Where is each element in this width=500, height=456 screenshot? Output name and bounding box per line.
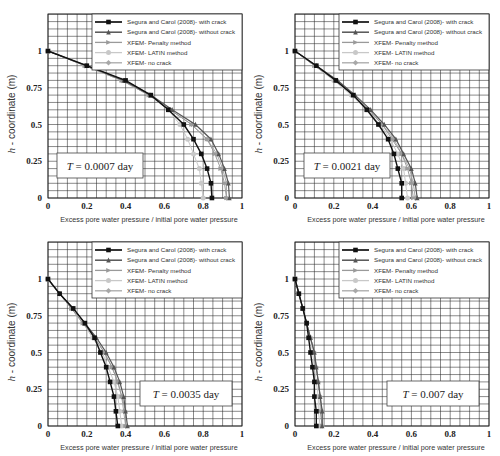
y-tick-label: 0.25 — [273, 156, 289, 166]
time-annotation: T = 0.007 day — [387, 381, 479, 406]
y-tick-label: 0 — [38, 193, 43, 203]
x-tick-label: 0.6 — [406, 201, 418, 211]
y-tick-label: 0.25 — [26, 156, 42, 166]
x-axis-label: Excess pore water pressure / initial por… — [307, 215, 484, 224]
y-tick-label: 0.5 — [278, 120, 290, 130]
square-marker-icon — [399, 196, 404, 201]
square-marker-icon — [166, 108, 171, 113]
svg-text:T = 0.007 day: T = 0.007 day — [402, 388, 464, 400]
y-tick-label: 0.75 — [26, 311, 42, 321]
square-marker-icon — [310, 365, 315, 370]
legend: Segura and Carol (2008)- with crackSegur… — [339, 14, 489, 70]
y-tick-label: 0.75 — [26, 83, 42, 93]
square-marker-icon — [108, 380, 113, 385]
square-marker-icon — [123, 78, 128, 83]
svg-text:T = 0.0021 day: T = 0.0021 day — [314, 160, 381, 172]
circle-marker-icon — [191, 151, 196, 156]
y-tick-label: 0.25 — [26, 384, 42, 394]
x-tick-label: 0.2 — [328, 429, 340, 439]
square-marker-icon — [92, 336, 97, 341]
x-tick-label: 0 — [293, 201, 298, 211]
square-marker-icon — [57, 291, 62, 296]
legend-entry: XFEM- Penalty method — [374, 39, 439, 46]
x-axis-label: Excess pore water pressure / initial por… — [60, 215, 237, 224]
legend-entry: Segura and Carol (2008)- without crack — [374, 28, 483, 35]
square-marker-icon — [149, 93, 154, 98]
legend-entry: XFEM- LATIN method — [374, 49, 435, 56]
square-marker-icon — [364, 108, 369, 113]
x-tick-label: 0.4 — [367, 429, 379, 439]
x-axis-label: Excess pore water pressure / initial por… — [60, 443, 237, 452]
x-tick-label: 1 — [240, 429, 245, 439]
square-marker-icon — [353, 20, 358, 25]
x-tick-label: 0 — [46, 201, 51, 211]
y-axis-label: h - coordinate (m) — [5, 75, 17, 154]
x-tick-label: 0.6 — [159, 429, 171, 439]
circle-marker-icon — [185, 137, 190, 142]
legend-entry: XFEM- no crack — [127, 287, 172, 294]
chart-panel-2: 00.20.40.60.8100.250.50.751Excess pore w… — [247, 0, 497, 228]
x-tick-label: 0.6 — [406, 429, 418, 439]
circle-marker-icon — [353, 278, 358, 283]
time-annotation: T = 0.0007 day — [57, 153, 143, 178]
square-marker-icon — [46, 277, 51, 282]
x-tick-label: 1 — [240, 201, 245, 211]
legend-entry: XFEM- Penalty method — [127, 267, 192, 274]
chart-svg-t0035: 00.20.40.60.8100.250.50.751Excess pore w… — [0, 228, 250, 456]
y-tick-label: 0.75 — [273, 311, 289, 321]
y-tick-label: 0.25 — [273, 384, 289, 394]
square-marker-icon — [306, 336, 311, 341]
square-marker-icon — [351, 93, 356, 98]
legend-entry: XFEM- LATIN method — [374, 277, 435, 284]
square-marker-icon — [396, 166, 401, 171]
x-tick-label: 0.2 — [328, 201, 340, 211]
circle-marker-icon — [106, 50, 111, 55]
square-marker-icon — [386, 137, 391, 142]
square-marker-icon — [333, 78, 338, 83]
y-tick-label: 1 — [285, 274, 290, 284]
svg-text:T = 0.0035 day: T = 0.0035 day — [153, 388, 220, 400]
square-marker-icon — [210, 196, 215, 201]
y-axis-label: h - coordinate (m) — [252, 75, 264, 154]
legend-entry: Segura and Carol (2008)- with crack — [127, 18, 227, 25]
legend-entry: XFEM- LATIN method — [127, 277, 188, 284]
chart-panel-3: 00.20.40.60.8100.250.50.751Excess pore w… — [0, 228, 250, 456]
time-annotation: T = 0.0035 day — [140, 381, 232, 406]
y-tick-label: 0 — [285, 193, 290, 203]
legend: Segura and Carol (2008)- with crackSegur… — [339, 242, 489, 298]
x-tick-label: 0.6 — [159, 201, 171, 211]
x-tick-label: 0.4 — [367, 201, 379, 211]
square-marker-icon — [116, 424, 121, 429]
legend: Segura and Carol (2008)- with crackSegur… — [92, 242, 242, 298]
legend-entry: Segura and Carol (2008)- without crack — [127, 28, 236, 35]
y-tick-label: 1 — [285, 46, 290, 56]
square-marker-icon — [106, 248, 111, 253]
square-marker-icon — [104, 365, 109, 370]
square-marker-icon — [314, 409, 319, 414]
square-marker-icon — [304, 321, 309, 326]
x-tick-label: 1 — [487, 201, 492, 211]
square-marker-icon — [191, 137, 196, 142]
x-tick-label: 0 — [46, 429, 51, 439]
square-marker-icon — [353, 248, 358, 253]
legend: Segura and Carol (2008)- with crackSegur… — [92, 14, 242, 70]
legend-entry: XFEM- Penalty method — [127, 39, 192, 46]
y-tick-label: 0.5 — [31, 120, 43, 130]
square-marker-icon — [98, 350, 103, 355]
chart-panel-4: 00.20.40.60.8100.250.50.751Excess pore w… — [247, 228, 497, 456]
square-marker-icon — [312, 380, 317, 385]
square-marker-icon — [46, 49, 51, 54]
y-tick-label: 1 — [38, 274, 43, 284]
square-marker-icon — [106, 20, 111, 25]
circle-marker-icon — [199, 181, 204, 186]
y-axis-label: h - coordinate (m) — [252, 303, 264, 382]
x-tick-label: 1 — [487, 429, 492, 439]
legend-entry: XFEM- no crack — [374, 287, 419, 294]
x-tick-label: 0.8 — [445, 429, 457, 439]
y-tick-label: 0.5 — [31, 348, 43, 358]
square-marker-icon — [209, 181, 214, 186]
legend-entry: XFEM- no crack — [374, 59, 419, 66]
time-annotation: T = 0.0021 day — [304, 153, 390, 178]
square-marker-icon — [83, 321, 88, 326]
legend-entry: Segura and Carol (2008)- with crack — [127, 246, 227, 253]
